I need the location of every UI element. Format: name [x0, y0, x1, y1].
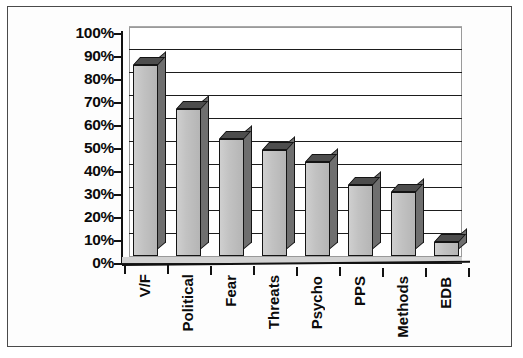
- bar-side-face: [287, 136, 295, 249]
- bar-side-face: [158, 51, 166, 249]
- bar[interactable]: [219, 139, 244, 256]
- x-axis-label: EDB: [438, 277, 453, 309]
- x-axis-label: Psycho: [309, 276, 324, 329]
- y-axis-tick: [114, 263, 122, 265]
- x-axis-label: PPS: [352, 276, 367, 306]
- x-axis-label: Fear: [223, 275, 238, 307]
- y-axis-tick: [114, 217, 122, 219]
- x-axis-tick: [468, 268, 470, 277]
- y-axis-tick: [114, 56, 122, 58]
- gridline: [129, 49, 462, 50]
- y-axis-label: 0%: [52, 255, 114, 271]
- gridline: [129, 95, 462, 96]
- y-axis-label: 60%: [52, 117, 114, 133]
- x-axis-tick: [253, 266, 255, 275]
- y-axis-tick: [114, 148, 122, 150]
- bar-front-face: [434, 242, 459, 256]
- y-axis-tick: [114, 194, 122, 196]
- y-axis-label: 80%: [52, 71, 114, 87]
- bar-front-face: [133, 65, 158, 256]
- x-axis-tick: [296, 267, 298, 276]
- x-axis-tick: [382, 268, 384, 277]
- bar[interactable]: [176, 109, 201, 256]
- bar[interactable]: [262, 150, 287, 256]
- bar-front-face: [391, 192, 416, 256]
- plot-area: [122, 33, 462, 263]
- bar[interactable]: [348, 185, 373, 256]
- x-axis-tick: [339, 267, 341, 276]
- x-axis-label: V/F: [137, 274, 152, 297]
- y-axis-tick: [114, 102, 122, 104]
- y-axis-tick: [114, 240, 122, 242]
- x-axis-tick: [210, 266, 212, 275]
- gridline: [129, 26, 462, 27]
- bar[interactable]: [305, 162, 330, 256]
- bar-chart: 0%10%20%30%40%50%60%70%80%90%100% V/FPol…: [0, 0, 523, 358]
- y-axis-label: 70%: [52, 94, 114, 110]
- y-axis-label: 30%: [52, 186, 114, 202]
- x-axis-label: Political: [180, 274, 195, 332]
- x-axis-tick: [167, 265, 169, 274]
- x-axis-tick: [124, 265, 126, 274]
- bar-front-face: [176, 109, 201, 256]
- y-axis-label: 20%: [52, 209, 114, 225]
- y-axis-tick: [114, 125, 122, 127]
- bar-front-face: [348, 185, 373, 256]
- bar-front-face: [262, 150, 287, 256]
- bar-front-face: [305, 162, 330, 256]
- bar-side-face: [244, 125, 252, 249]
- x-axis-label: Methods: [395, 276, 410, 338]
- bar[interactable]: [391, 192, 416, 256]
- bar-side-face: [330, 148, 338, 249]
- y-axis-tick: [114, 79, 122, 81]
- y-axis-label: 40%: [52, 163, 114, 179]
- bar-side-face: [201, 95, 209, 249]
- y-axis-tick: [114, 33, 122, 35]
- x-axis-tick: [425, 268, 427, 277]
- x-axis-label: Threats: [266, 275, 281, 329]
- y-axis-tick-labels: 0%10%20%30%40%50%60%70%80%90%100%: [44, 0, 114, 358]
- y-axis-label: 100%: [52, 25, 114, 41]
- bar[interactable]: [133, 65, 158, 256]
- y-axis-label: 50%: [52, 140, 114, 156]
- bar[interactable]: [434, 242, 459, 256]
- bar-front-face: [219, 139, 244, 256]
- y-axis-label: 90%: [52, 48, 114, 64]
- y-axis-label: 10%: [52, 232, 114, 248]
- gridline: [129, 72, 462, 73]
- y-axis-tick: [114, 171, 122, 173]
